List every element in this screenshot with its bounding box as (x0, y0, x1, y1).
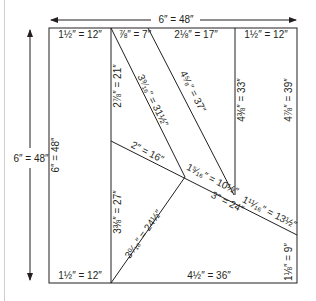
top-label-1: 1½″ = 12″ (58, 29, 102, 40)
left-edge-label: 6″ = 48″ (50, 137, 61, 173)
overall-height-label: 6″ = 48″ (13, 153, 49, 164)
left-lower-vertical-label: 3⅜″ = 27″ (112, 190, 123, 234)
outer-square (49, 28, 297, 283)
top-label-2: ⅞″ = 7″ (119, 29, 152, 40)
long-slant-line (111, 141, 297, 235)
short-slant-label: 2″ = 16″ (129, 139, 166, 165)
left-dimension-arrow: 6″ = 48″ (13, 30, 49, 280)
right-inner-vertical-label: 4⅜″ = 33″ (236, 78, 247, 122)
top-label-4: 1½″ = 12″ (244, 29, 288, 40)
diagonal-b-label: 4⁵⁄₈″ = 37″ (178, 69, 209, 115)
right-edge-upper-label: 4⅞″ = 39″ (283, 78, 294, 122)
right-edge-lower-label: 1⅛″ = 9″ (283, 243, 294, 281)
overall-width-label: 6″ = 48″ (158, 14, 194, 25)
slant-right-label: 1¹¹⁄₁₆″ = 13½″ (241, 194, 299, 231)
bottom-label-2: 4½″ = 36″ (187, 270, 231, 281)
diagonal-a-label: 3⁹⁄₁₆″ = 31½″ (136, 73, 171, 129)
top-label-3: 2⅛″ = 17″ (174, 29, 218, 40)
bottom-diagonal-label: 3⁰⁄₁₆″ = 24½″ (122, 207, 164, 260)
left-upper-vertical-label: 2⅞″ = 21″ (112, 64, 123, 108)
quilt-cutting-diagram: 6″ = 48″ 6″ = 48″ 1½″ = 12″ ⅞″ = 7″ 2⅛″ … (0, 0, 316, 301)
top-dimension-arrow: 6″ = 48″ (51, 14, 296, 25)
bottom-label-1: 1½″ = 12″ (58, 270, 102, 281)
